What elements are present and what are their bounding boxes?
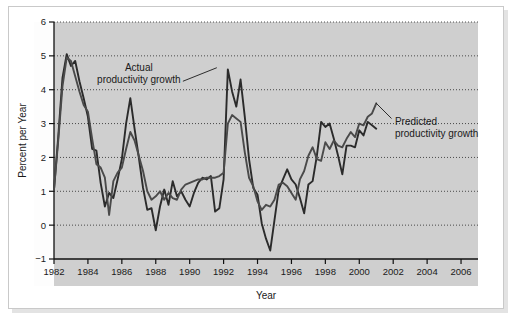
x-tick-label: 2000 xyxy=(349,266,370,277)
y-tick-label: 0 xyxy=(41,220,46,231)
line-chart: −101234561982198419861988199019921994199… xyxy=(8,6,504,309)
predicted-annotation-leader xyxy=(376,103,391,118)
actual-annotation-leader xyxy=(183,68,217,82)
x-tick-label: 1988 xyxy=(145,266,166,277)
x-tick-label: 1984 xyxy=(77,266,98,277)
x-tick-label: 1998 xyxy=(315,266,336,277)
chart-page: −101234561982198419861988199019921994199… xyxy=(0,0,512,321)
y-tick-label: 3 xyxy=(41,118,46,129)
y-axis-title: Percent per Year xyxy=(17,103,28,178)
actual-annotation-line2: productivity growth xyxy=(97,74,180,85)
predicted-annotation-line1: Predicted xyxy=(395,116,437,127)
predicted-annotation-line2: productivity growth xyxy=(395,128,478,139)
actual-annotation-line1: Actual xyxy=(125,62,153,73)
x-tick-label: 1992 xyxy=(213,266,234,277)
x-axis-title: Year xyxy=(256,290,277,301)
y-tick-label: 2 xyxy=(41,152,46,163)
y-tick-label: 6 xyxy=(41,16,46,27)
y-tick-label: −1 xyxy=(35,253,46,264)
x-tick-label: 2002 xyxy=(383,266,404,277)
x-tick-label: 1990 xyxy=(179,266,200,277)
y-tick-label: 4 xyxy=(41,84,46,95)
x-tick-label: 1994 xyxy=(247,266,268,277)
figure: −101234561982198419861988199019921994199… xyxy=(8,6,504,309)
x-tick-label: 1982 xyxy=(43,266,64,277)
x-tick-label: 2004 xyxy=(417,266,438,277)
y-tick-label: 1 xyxy=(41,186,46,197)
x-tick-label: 1986 xyxy=(111,266,132,277)
y-tick-label: 5 xyxy=(41,50,46,61)
x-tick-label: 2006 xyxy=(450,266,471,277)
x-tick-label: 1996 xyxy=(281,266,302,277)
